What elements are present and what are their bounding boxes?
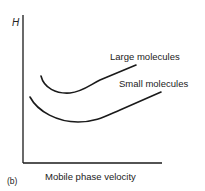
curve-small-molecules [30,92,161,122]
x-axis-label: Mobile phase velocity [45,171,136,182]
series-label-large: Large molecules [110,51,180,62]
panel-label: (b) [7,176,18,186]
series-label-small: Small molecules [119,78,188,89]
chart: H Large molecules Small molecules Mobile… [0,0,205,191]
y-axis-label: H [12,17,20,28]
